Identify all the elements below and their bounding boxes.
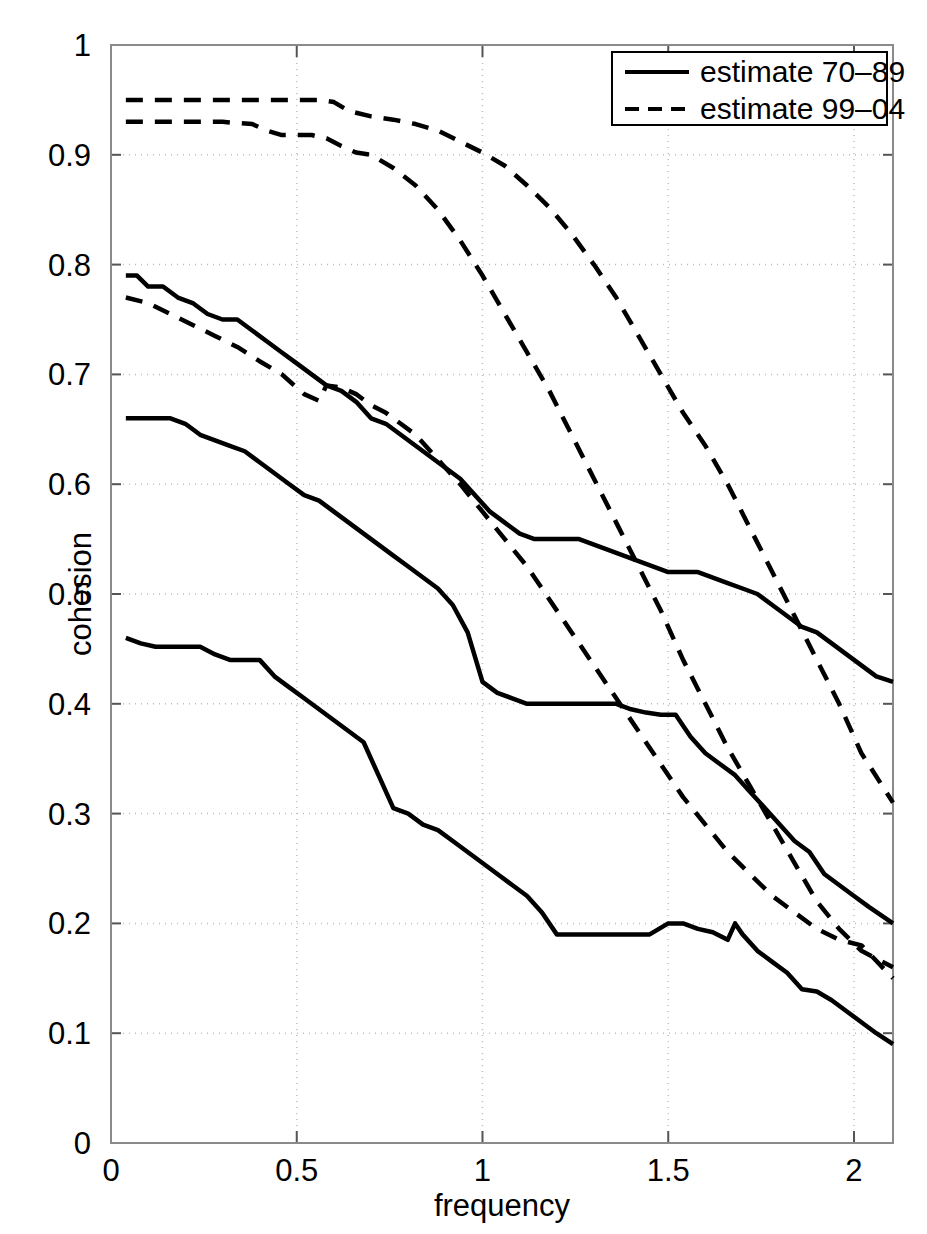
legend-entry-dashed: estimate 99–04 <box>613 90 886 127</box>
legend-label-dashed: estimate 99–04 <box>700 94 905 124</box>
x-tick-label: 0.5 <box>275 1155 318 1186</box>
y-tick-label: 0.1 <box>0 1018 91 1049</box>
y-tick-label: 0.7 <box>0 359 91 390</box>
legend-label-solid: estimate 70–89 <box>700 57 905 87</box>
series-line <box>126 298 893 979</box>
plot-canvas <box>0 0 927 1234</box>
x-tick-label: 1.5 <box>647 1155 690 1186</box>
legend-entry-solid: estimate 70–89 <box>613 53 886 90</box>
series-line <box>126 418 893 923</box>
y-tick-label: 0.8 <box>0 249 91 280</box>
x-axis-title: frequency <box>434 1190 570 1221</box>
x-tick-label: 2 <box>845 1155 862 1186</box>
y-tick-label: 0.4 <box>0 688 91 719</box>
legend-swatch-dashed <box>624 102 690 116</box>
series-line <box>126 276 893 682</box>
x-tick-label: 0 <box>102 1155 119 1186</box>
x-tick-label: 1 <box>474 1155 491 1186</box>
series-line <box>126 122 893 967</box>
chart-figure: 00.10.20.30.40.50.60.70.80.91 00.511.52 … <box>0 0 927 1234</box>
y-tick-label: 0.6 <box>0 469 91 500</box>
legend: estimate 70–89 estimate 99–04 <box>611 51 888 126</box>
y-axis-title: cohesion <box>65 532 96 656</box>
y-tick-label: 1 <box>0 30 91 61</box>
legend-swatch-solid <box>624 65 690 79</box>
y-tick-label: 0 <box>0 1128 91 1159</box>
y-tick-label: 0.9 <box>0 139 91 170</box>
grid-lines <box>111 45 893 1143</box>
y-tick-label: 0.2 <box>0 908 91 939</box>
data-series <box>126 100 893 1044</box>
y-tick-label: 0.3 <box>0 798 91 829</box>
